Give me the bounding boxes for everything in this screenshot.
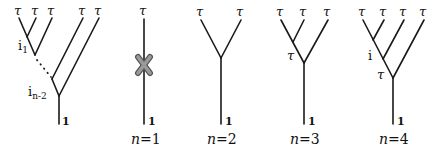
leaf-label: τ — [94, 3, 102, 18]
caption-n1: n=1 — [131, 131, 161, 147]
edge — [383, 20, 404, 59]
ellipsis-dots — [37, 60, 51, 77]
edge — [52, 18, 83, 79]
root-label: 1 — [148, 115, 156, 128]
root-label: 1 — [397, 115, 405, 128]
root-label: 1 — [62, 115, 70, 128]
leaf-label: τ — [399, 4, 407, 19]
internal-label-i1: i1 — [18, 38, 28, 55]
internal-label-in-2: in-2 — [28, 84, 47, 101]
leaf-label: τ — [379, 4, 387, 19]
caption-n2: n=2 — [207, 131, 237, 147]
general-fusion-tree: τ τ τ τ τ i1 in-2 1 — [14, 3, 102, 128]
leaf-label: τ — [358, 4, 366, 19]
internal-label: τ — [377, 67, 385, 82]
leaf-label: τ — [14, 3, 22, 18]
fusion-tree-n4: τ τ τ τ i τ 1 n=4 — [358, 4, 427, 147]
leaf-label: τ — [236, 4, 244, 19]
edge — [27, 18, 36, 37]
caption-n4: n=4 — [379, 131, 409, 147]
leaf-label: τ — [31, 3, 39, 18]
edge — [52, 79, 59, 96]
leaf-label: τ — [299, 4, 307, 19]
root-label: 1 — [225, 115, 233, 128]
leaf-label: τ — [139, 3, 147, 18]
edge — [59, 18, 99, 96]
fusion-tree-diagram: τ τ τ τ τ i1 in-2 1 τ 1 n=1 — [0, 0, 440, 151]
fusion-tree-n1: τ 1 n=1 — [131, 3, 161, 147]
leaf-label: τ — [196, 4, 204, 19]
leaf-label: τ — [323, 4, 331, 19]
fusion-tree-n3: τ τ τ τ 1 n=3 — [276, 4, 331, 147]
fusion-tree-n2: τ τ 1 n=2 — [196, 4, 244, 147]
leaf-label: τ — [47, 3, 55, 18]
internal-label: i — [368, 48, 372, 63]
leaf-label: τ — [78, 3, 86, 18]
edge — [393, 20, 424, 78]
edge — [304, 20, 328, 63]
edge — [35, 18, 52, 55]
edge — [293, 20, 304, 42]
leaf-label: τ — [419, 4, 427, 19]
root-label: 1 — [308, 115, 316, 128]
internal-label: τ — [287, 48, 295, 63]
leaf-label: τ — [276, 4, 284, 19]
edge — [221, 20, 241, 58]
caption-n3: n=3 — [290, 131, 320, 147]
edge — [201, 20, 221, 58]
edge — [373, 20, 384, 40]
diagram-svg: τ τ τ τ τ i1 in-2 1 τ 1 n=1 — [0, 0, 440, 151]
